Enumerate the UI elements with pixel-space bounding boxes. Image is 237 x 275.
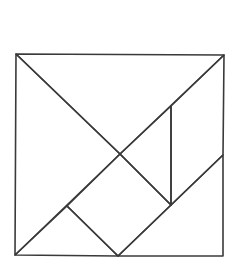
tangram-canvas [0, 0, 237, 275]
large-triangle-top [16, 54, 224, 154]
small-triangle-center [120, 106, 171, 205]
square [67, 154, 171, 256]
tangram-pieces [15, 54, 224, 256]
tangram-diagram [0, 0, 237, 275]
large-triangle-left [15, 54, 120, 255]
parallelogram-right [171, 55, 224, 205]
small-triangle-bottom-left [15, 206, 118, 256]
